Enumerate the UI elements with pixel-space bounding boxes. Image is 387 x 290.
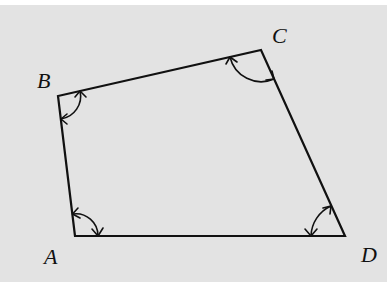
vertex-label-a: A [42,244,58,269]
vertex-label-c: C [272,23,287,48]
vertex-label-b: B [37,68,50,93]
quadrilateral-diagram: A B C D [0,0,387,290]
diagram-background [0,5,387,282]
vertex-label-d: D [360,242,377,267]
